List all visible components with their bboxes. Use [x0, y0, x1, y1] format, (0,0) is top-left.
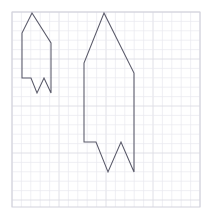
large-rocket-polygon — [84, 13, 134, 172]
figure-svg — [0, 0, 212, 223]
figure-canvas — [0, 0, 212, 223]
grid-layer — [12, 12, 200, 207]
small-rocket-polygon — [22, 13, 51, 93]
